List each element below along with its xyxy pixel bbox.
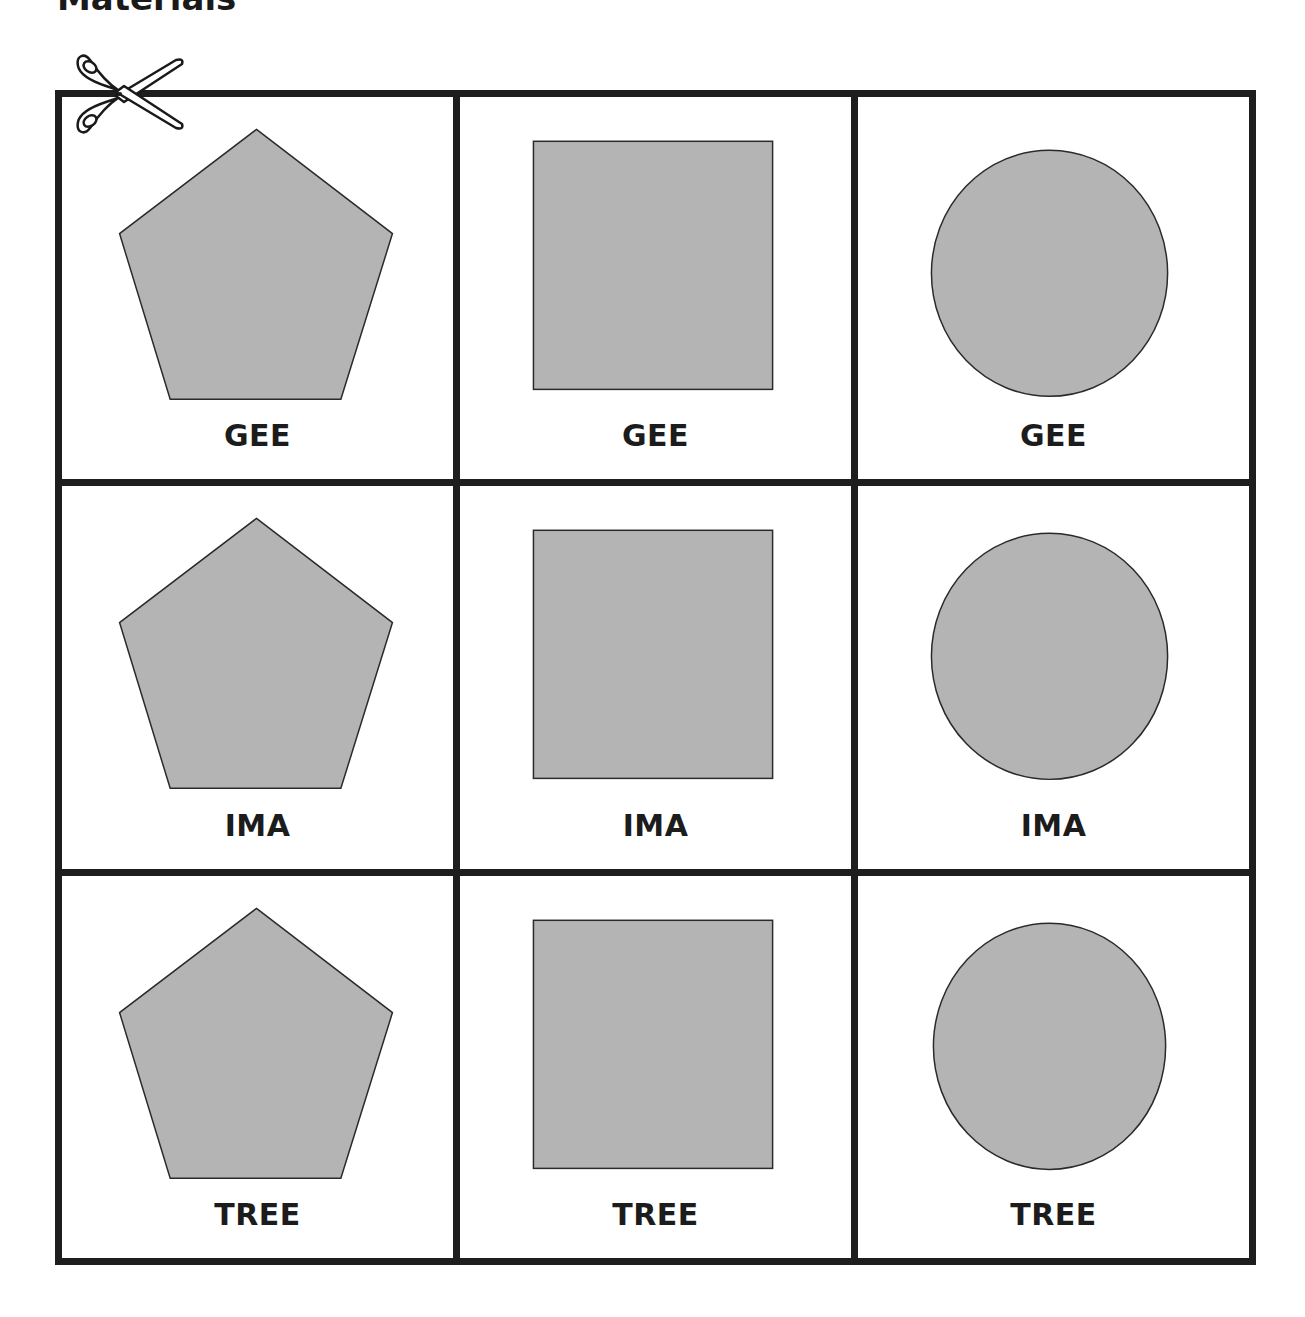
card-circle-ima: IMA [858,486,1249,868]
card-label: GEE [62,418,453,453]
card-circle-gee: GEE [858,97,1249,479]
card-label: GEE [858,418,1249,453]
card-pentagon-gee: GEE [62,97,453,479]
card-label: GEE [460,418,851,453]
card-pentagon-ima: IMA [62,486,453,868]
card-label: IMA [460,808,851,843]
card-circle-tree: TREE [858,876,1249,1258]
card-label: IMA [62,808,453,843]
card-square-tree: TREE [460,876,851,1258]
card-square-gee: GEE [460,97,851,479]
card-label: TREE [460,1197,851,1232]
card-label: TREE [858,1197,1249,1232]
cutout-card-grid: GEE GEE GEE IMA IMA IMA TR [55,90,1256,1265]
page-title: Materials [57,0,236,18]
card-square-ima: IMA [460,486,851,868]
scissors-icon [76,52,186,136]
card-label: IMA [858,808,1249,843]
card-pentagon-tree: TREE [62,876,453,1258]
card-label: TREE [62,1197,453,1232]
